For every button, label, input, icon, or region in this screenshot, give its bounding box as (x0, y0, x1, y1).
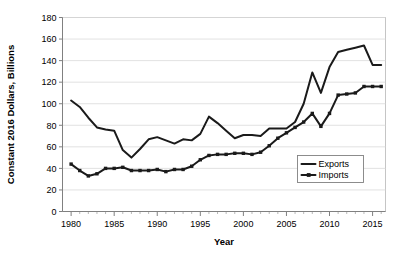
data-point-marker (276, 137, 279, 140)
data-point-marker (371, 85, 374, 88)
y-axis-ticks-group (59, 18, 63, 212)
y-axis-tick-label: 80 (46, 121, 56, 131)
data-point-marker (268, 144, 271, 147)
data-point-marker (147, 169, 150, 172)
y-axis-tick-label: 0 (51, 207, 56, 217)
x-axis-tick-label: 2000 (233, 219, 253, 229)
data-point-marker (302, 120, 305, 123)
x-axis-tick-label: 1990 (147, 219, 167, 229)
x-axis-tick-label: 1985 (104, 219, 124, 229)
data-point-marker (259, 151, 262, 154)
data-point-marker (138, 169, 141, 172)
x-axis-title: Year (214, 236, 234, 247)
data-point-marker (233, 152, 236, 155)
y-axis-tick-label: 180 (41, 13, 56, 23)
data-point-marker (130, 169, 133, 172)
chart-plot-area: 020406080100120140160180 198019851990199… (41, 13, 385, 229)
data-point-marker (87, 174, 90, 177)
y-axis-tick-label: 100 (41, 99, 56, 109)
data-point-marker (199, 158, 202, 161)
x-axis-ticks-group (71, 212, 381, 217)
y-axis-title: Constant 2016 Dollars, Billions (5, 45, 16, 184)
data-point-marker (95, 172, 98, 175)
data-point-marker (319, 125, 322, 128)
y-axis-tick-label: 160 (41, 34, 56, 44)
y-axis-tick-label: 120 (41, 77, 56, 87)
chart-container: 020406080100120140160180 198019851990199… (0, 0, 409, 263)
data-point-marker (328, 112, 331, 115)
data-point-marker (285, 131, 288, 134)
legend-swatch-marker (307, 173, 311, 177)
x-axis-tick-label: 1980 (61, 219, 81, 229)
data-point-marker (242, 152, 245, 155)
data-point-marker (224, 153, 227, 156)
x-axis-tick-label: 2010 (319, 219, 339, 229)
data-point-marker (362, 85, 365, 88)
y-axis-tick-labels-group: 020406080100120140160180 (41, 13, 56, 217)
data-point-marker (181, 168, 184, 171)
y-axis-tick-label: 20 (46, 185, 56, 195)
data-point-marker (311, 112, 314, 115)
y-axis-tick-label: 140 (41, 56, 56, 66)
line-chart: 020406080100120140160180 198019851990199… (0, 0, 409, 263)
data-point-marker (104, 167, 107, 170)
x-axis-tick-label: 1995 (190, 219, 210, 229)
data-point-marker (156, 168, 159, 171)
x-axis-tick-label: 2005 (276, 219, 296, 229)
data-point-marker (207, 154, 210, 157)
chart-legend: ExportsImports (298, 156, 364, 183)
y-axis-tick-label: 40 (46, 164, 56, 174)
x-axis-tick-labels-group: 19801985199019952000200520102015 (61, 219, 382, 229)
data-point-marker (78, 169, 81, 172)
data-point-marker (190, 165, 193, 168)
x-axis-tick-label: 2015 (363, 219, 383, 229)
data-point-marker (250, 153, 253, 156)
data-point-marker (345, 92, 348, 95)
data-point-marker (293, 126, 296, 129)
legend-label: Exports (319, 159, 350, 169)
data-point-marker (379, 85, 382, 88)
data-point-marker (164, 170, 167, 173)
legend-label: Imports (319, 170, 350, 180)
data-point-marker (216, 153, 219, 156)
data-point-marker (69, 162, 72, 165)
data-point-marker (112, 167, 115, 170)
y-axis-tick-label: 60 (46, 142, 56, 152)
data-point-marker (173, 168, 176, 171)
data-point-marker (336, 93, 339, 96)
data-point-marker (121, 166, 124, 169)
data-point-marker (354, 91, 357, 94)
